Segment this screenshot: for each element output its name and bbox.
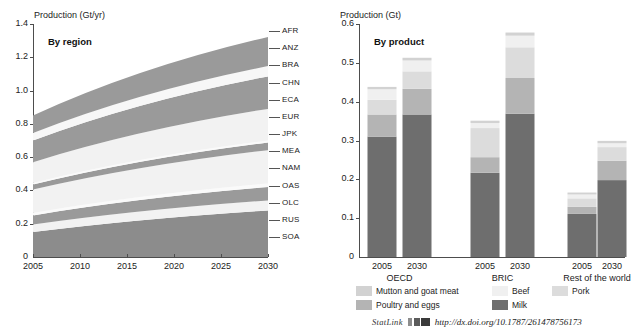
region-leader-line	[269, 83, 280, 84]
right-y-tick-label: 0	[332, 251, 354, 261]
region-leader-line	[269, 186, 280, 187]
region-leader-line	[269, 100, 280, 101]
region-label-eur: EUR	[282, 112, 300, 121]
bar-segment-pork	[598, 147, 627, 161]
legend-item-beef: Beef	[492, 286, 530, 296]
left-y-tick-label: 1.4	[0, 18, 28, 28]
chart-by-product: Production (Gt) By product 00.10.20.30.4…	[332, 0, 638, 290]
legend-label-mutton-and-goat-meat: Mutton and goat meat	[376, 286, 459, 296]
right-x-axis-line	[359, 257, 625, 258]
right-x-tick-label: 2030	[592, 261, 632, 271]
legend-label-beef: Beef	[512, 286, 530, 296]
bar-segment-milk	[368, 137, 397, 257]
statlink-url[interactable]: http://dx.doi.org/10.1787/261478756173	[435, 317, 582, 327]
bar-segment-mutton-and-goat-meat	[506, 33, 535, 36]
region-label-mea: MEA	[282, 146, 300, 155]
region-leader-line	[269, 203, 280, 204]
bar-segment-mutton-and-goat-meat	[471, 121, 500, 123]
region-label-eca: ECA	[282, 95, 299, 104]
group-label-oecd: OECD	[350, 273, 450, 283]
right-x-tick-label: 2030	[500, 261, 540, 271]
region-label-olc: OLC	[282, 198, 299, 207]
legend-swatch-milk	[492, 300, 508, 310]
left-x-tick-label: 2015	[107, 261, 147, 271]
left-y-tick-label: 0.4	[0, 184, 28, 194]
right-y-tick-label: 0.2	[332, 173, 354, 183]
group-label-bric: BRIC	[453, 273, 553, 283]
region-leader-line	[269, 48, 280, 49]
left-x-tick-label: 2010	[60, 261, 100, 271]
legend-item-milk: Milk	[492, 300, 527, 310]
bar-segment-beef	[403, 61, 432, 72]
bar-segment-poultry-and-eggs	[598, 161, 627, 180]
bar-segment-mutton-and-goat-meat	[368, 87, 397, 89]
bar-segment-poultry-and-eggs	[471, 157, 500, 173]
region-label-chn: CHN	[282, 78, 300, 87]
region-label-jpk: JPK	[282, 129, 297, 138]
right-y-tick-label: 0.4	[332, 96, 354, 106]
statlink[interactable]: StatLink http://dx.doi.org/10.1787/26147…	[372, 317, 582, 327]
bar-segment-milk	[403, 114, 432, 257]
left-y-tick-label: 1.2	[0, 51, 28, 61]
region-label-oas: OAS	[282, 181, 300, 190]
region-label-soa: SOA	[282, 232, 300, 241]
bar-segment-pork	[368, 100, 397, 115]
bar-segment-milk	[598, 180, 627, 257]
bar-segment-beef	[598, 143, 627, 147]
left-y-tick-label: 0	[0, 251, 28, 261]
right-x-tick-label: 2030	[397, 261, 437, 271]
group-label-rest-of-the-world: Rest of the world	[547, 273, 638, 283]
left-plot-area	[33, 24, 268, 257]
legend-item-mutton-and-goat-meat: Mutton and goat meat	[356, 286, 459, 296]
right-x-tick-label: 2005	[362, 261, 402, 271]
right-y-tick-label: 0.1	[332, 212, 354, 222]
legend-label-pork: Pork	[572, 286, 589, 296]
left-x-tick-label: 2030	[248, 261, 288, 271]
bar-segment-pork	[403, 71, 432, 88]
bar-segment-milk	[568, 214, 597, 257]
left-x-tick-label: 2020	[154, 261, 194, 271]
left-y-tick-label: 1.0	[0, 85, 28, 95]
region-label-bra: BRA	[282, 60, 299, 69]
chart-by-region: Production (Gt/yr) By region 00.20.40.60…	[0, 0, 320, 290]
bar-segment-milk	[471, 173, 500, 257]
region-label-anz: ANZ	[282, 43, 299, 52]
legend-swatch-beef	[492, 286, 508, 296]
left-x-tickmark	[174, 254, 175, 257]
bar-segment-mutton-and-goat-meat	[403, 58, 432, 61]
left-x-tickmark	[268, 254, 269, 257]
left-x-tick-label: 2005	[13, 261, 53, 271]
bar-segment-beef	[506, 36, 535, 48]
legend-item-pork: Pork	[552, 286, 589, 296]
legend-label-milk: Milk	[512, 300, 527, 310]
left-x-axis-line	[33, 257, 268, 258]
left-y-tick-label: 0.2	[0, 218, 28, 228]
left-y-tick-label: 0.8	[0, 118, 28, 128]
region-leader-line	[269, 134, 280, 135]
right-y-tick-label: 0.3	[332, 135, 354, 145]
bar-segment-poultry-and-eggs	[368, 114, 397, 136]
region-leader-line	[269, 237, 280, 238]
region-leader-line	[269, 220, 280, 221]
left-x-tickmark	[127, 254, 128, 257]
bar-segment-poultry-and-eggs	[506, 78, 535, 114]
region-label-afr: AFR	[282, 26, 299, 35]
right-y-tick-label: 0.6	[332, 18, 354, 28]
bar-segment-beef	[471, 123, 500, 128]
region-label-nam: NAM	[282, 163, 300, 172]
bar-segment-poultry-and-eggs	[568, 207, 597, 214]
legend-swatch-poultry-and-eggs	[356, 300, 372, 310]
region-leader-line	[269, 151, 280, 152]
legend-swatch-mutton-and-goat-meat	[356, 286, 372, 296]
bar-segment-beef	[568, 194, 597, 198]
bar-segment-pork	[568, 198, 597, 207]
region-leader-line	[269, 117, 280, 118]
statlink-label: StatLink	[372, 317, 403, 327]
left-x-tickmark	[80, 254, 81, 257]
legend-label-poultry-and-eggs: Poultry and eggs	[376, 300, 440, 310]
bar-segment-milk	[506, 114, 535, 257]
right-y-tick-label: 0.5	[332, 57, 354, 67]
left-axis-title: Production (Gt/yr)	[34, 10, 105, 20]
bar-segment-pork	[506, 47, 535, 78]
bar-segment-poultry-and-eggs	[403, 89, 432, 115]
